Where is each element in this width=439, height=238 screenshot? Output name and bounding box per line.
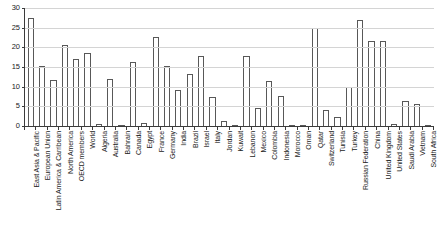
x-tick-mark xyxy=(308,127,309,130)
gridline xyxy=(25,67,434,68)
x-tick-mark xyxy=(81,127,82,130)
y-tick-label: 20 xyxy=(12,44,20,52)
y-tick-mark xyxy=(22,87,25,88)
x-axis-label: Qatar xyxy=(317,131,324,148)
bar xyxy=(300,125,306,126)
x-tick-mark xyxy=(229,127,230,130)
x-axis-label: Vietnam xyxy=(419,131,426,156)
bar xyxy=(96,124,102,126)
x-tick-mark xyxy=(319,127,320,130)
x-axis-label: United Kingdom xyxy=(385,131,392,179)
bar xyxy=(323,110,329,126)
gridline xyxy=(25,87,434,88)
bar xyxy=(278,96,284,126)
y-axis-tick-labels: 051015202530 xyxy=(0,8,22,126)
bar xyxy=(84,53,90,126)
y-tick-label: 0 xyxy=(16,122,20,130)
x-axis-label: India xyxy=(180,131,187,146)
bar-chart: 051015202530 East Asia & PacificEuropean… xyxy=(0,0,439,238)
y-tick-mark xyxy=(22,106,25,107)
x-axis-label: Morocco xyxy=(294,131,301,157)
x-tick-mark xyxy=(104,127,105,130)
x-axis-label: World xyxy=(89,131,96,149)
x-axis-label: Oman xyxy=(305,131,312,150)
x-axis-label: Russian Federation xyxy=(362,131,369,190)
bar xyxy=(130,62,136,126)
x-tick-mark xyxy=(342,127,343,130)
x-axis-label: Canada xyxy=(135,131,142,155)
y-tick-label: 5 xyxy=(16,103,20,111)
gridline xyxy=(25,47,434,48)
x-tick-mark xyxy=(297,127,298,130)
gridline xyxy=(25,106,434,107)
x-axis-label: European Union xyxy=(44,131,51,180)
gridline xyxy=(25,8,434,9)
x-tick-mark xyxy=(58,127,59,130)
x-axis-label: France xyxy=(158,131,165,152)
x-tick-mark xyxy=(115,127,116,130)
gridline xyxy=(25,28,434,29)
bar xyxy=(164,66,170,126)
x-axis-label: South Africa xyxy=(430,131,437,168)
y-tick-mark xyxy=(22,67,25,68)
x-tick-mark xyxy=(69,127,70,130)
y-tick-label: 15 xyxy=(12,63,20,71)
bar xyxy=(187,74,193,126)
chart-plot-wrapper: 051015202530 East Asia & PacificEuropean… xyxy=(0,0,439,238)
y-tick-mark xyxy=(22,47,25,48)
x-axis-label: OECD members xyxy=(78,131,85,181)
x-axis-label: Indonesia xyxy=(283,131,290,160)
bar xyxy=(232,125,238,126)
x-axis-label: North America xyxy=(67,131,74,174)
x-tick-mark xyxy=(35,127,36,130)
x-tick-mark xyxy=(217,127,218,130)
x-axis-label: Algeria xyxy=(101,131,108,152)
x-axis-label: Tunisia xyxy=(339,131,346,153)
bar xyxy=(255,108,261,126)
x-axis-label: Mexico xyxy=(260,131,267,153)
bar xyxy=(425,125,431,126)
x-axis-label: Saudi Arabia xyxy=(408,131,415,170)
x-tick-mark xyxy=(399,127,400,130)
x-axis-label: Italy xyxy=(214,131,221,143)
x-tick-mark xyxy=(376,127,377,130)
x-axis-label: Egypt xyxy=(146,131,153,148)
x-tick-mark xyxy=(263,127,264,130)
x-tick-mark xyxy=(331,127,332,130)
x-axis-category-labels: East Asia & PacificEuropean UnionLatin A… xyxy=(24,131,433,237)
bar xyxy=(380,41,386,126)
x-tick-mark xyxy=(47,127,48,130)
x-axis-label: Latin America & Carribean xyxy=(55,131,62,210)
x-axis-label: Colombia xyxy=(271,131,278,160)
x-tick-mark xyxy=(285,127,286,130)
x-tick-mark xyxy=(433,127,434,130)
x-tick-mark xyxy=(353,127,354,130)
x-tick-mark xyxy=(24,127,25,130)
x-tick-mark xyxy=(183,127,184,130)
bar xyxy=(153,37,159,126)
bar xyxy=(28,18,34,126)
x-axis-label: Turkey xyxy=(351,131,358,152)
x-axis-label: China xyxy=(374,131,381,149)
bar xyxy=(312,28,318,126)
x-axis-label: Jordan xyxy=(226,131,233,152)
y-tick-label: 25 xyxy=(12,24,20,32)
x-axis-label: Brazil xyxy=(192,131,199,148)
x-tick-mark xyxy=(365,127,366,130)
bar xyxy=(368,41,374,126)
x-tick-mark xyxy=(172,127,173,130)
x-tick-mark xyxy=(126,127,127,130)
x-tick-mark xyxy=(274,127,275,130)
x-tick-mark xyxy=(149,127,150,130)
bar xyxy=(221,121,227,126)
x-axis-label: Switzerland xyxy=(328,131,335,166)
x-tick-mark xyxy=(388,127,389,130)
x-tick-mark xyxy=(251,127,252,130)
x-axis-label: Israel xyxy=(203,131,210,148)
bar xyxy=(118,125,124,126)
x-tick-mark xyxy=(92,127,93,130)
y-tick-mark xyxy=(22,8,25,9)
bar xyxy=(289,125,295,126)
x-tick-mark xyxy=(240,127,241,130)
bar xyxy=(73,59,79,126)
